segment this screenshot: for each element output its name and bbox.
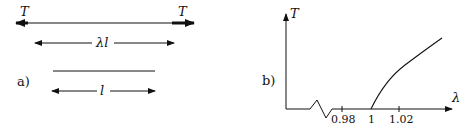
panel-a-label: a) xyxy=(17,75,30,88)
panel-b-label: b) xyxy=(262,74,275,87)
diagram-canvas xyxy=(0,0,466,129)
y-axis-label: T xyxy=(290,7,299,20)
force-label-left: T xyxy=(20,5,29,18)
stretched-length-label: λl xyxy=(96,36,108,49)
x-tick-label: 1.02 xyxy=(389,114,414,125)
x-tick-label: 1 xyxy=(368,114,375,125)
rest-length-label: l xyxy=(100,84,104,97)
force-label-right: T xyxy=(178,5,187,18)
tension-curve xyxy=(371,38,442,109)
x-axis-label: λ xyxy=(452,91,460,104)
x-tick-label: 0.98 xyxy=(331,114,356,125)
